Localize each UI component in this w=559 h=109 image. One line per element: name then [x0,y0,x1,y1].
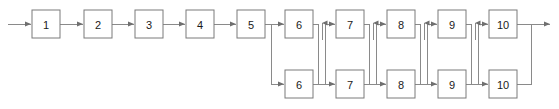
node-top-stage-6[interactable]: 6 [285,10,313,38]
flow-diagram-canvas: 1 2 3 4 5 6 [0,0,559,109]
node-stage-5-label: 5 [248,19,254,31]
edge-top-stage-8-to-bottom-stage-9 [415,24,437,84]
node-top-stage-8-label: 8 [398,19,404,31]
node-bottom-stage-6[interactable]: 6 [285,70,313,98]
node-bottom-stage-9-label: 9 [449,79,455,91]
node-stage-1[interactable]: 1 [32,10,60,38]
node-top-stage-10-label: 10 [497,19,509,31]
node-bottom-stage-7[interactable]: 7 [336,70,364,98]
edge-bottom-stage-6-to-top-stage-7 [313,24,335,84]
node-bottom-stage-8[interactable]: 8 [387,70,415,98]
node-bottom-stage-10-label: 10 [497,79,509,91]
node-stage-3-label: 3 [146,19,152,31]
node-top-stage-7-label: 7 [347,19,353,31]
node-top-stage-10[interactable]: 10 [489,10,517,38]
node-top-stage-9-label: 9 [449,19,455,31]
node-top-stage-8[interactable]: 8 [387,10,415,38]
node-stage-2-label: 2 [95,19,101,31]
node-stage-4-label: 4 [197,19,203,31]
edge-split-to-bottom-stage-6 [271,24,284,84]
node-stage-2[interactable]: 2 [84,10,112,38]
edge-bottom-stage-7-to-top-stage-8 [364,24,386,84]
edge-top-stage-7-to-bottom-stage-8 [364,24,386,84]
node-bottom-stage-6-label: 6 [296,79,302,91]
flow-diagram: 1 2 3 4 5 6 [0,0,559,109]
edge-top-stage-6-to-bottom-stage-7 [313,24,335,84]
node-bottom-stage-8-label: 8 [398,79,404,91]
edge-bottom-stage-8-to-top-stage-9 [415,24,437,84]
edge-top-stage-9-to-bottom-stage-10 [466,24,488,84]
node-top-stage-9[interactable]: 9 [438,10,466,38]
node-top-stage-7[interactable]: 7 [336,10,364,38]
edge-bottom-stage-9-to-top-stage-10 [466,24,488,84]
node-stage-1-label: 1 [43,19,49,31]
node-bottom-stage-10[interactable]: 10 [489,70,517,98]
node-stage-4[interactable]: 4 [186,10,214,38]
edge-bottom-stage-10-to-output [517,24,531,84]
node-bottom-stage-9[interactable]: 9 [438,70,466,98]
node-stage-5[interactable]: 5 [237,10,265,38]
node-stage-3[interactable]: 3 [135,10,163,38]
node-bottom-stage-7-label: 7 [347,79,353,91]
node-top-stage-6-label: 6 [296,19,302,31]
